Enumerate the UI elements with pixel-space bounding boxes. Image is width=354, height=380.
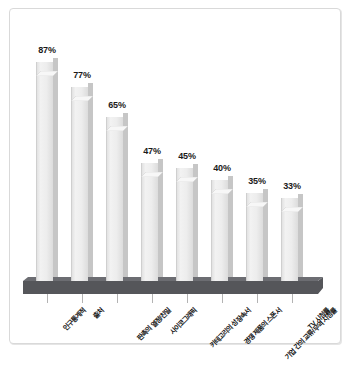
bar-value-label-6: 40% [203, 163, 241, 173]
category-label-3: 판촉의 열정/친밀 [135, 305, 173, 343]
bar-front-face [71, 87, 88, 281]
axis-tick-5 [187, 294, 188, 303]
axis-tick-7 [257, 294, 258, 303]
bar-1: 87% [36, 62, 58, 281]
bar-value-label-2: 77% [63, 70, 101, 80]
bar-top-cap [141, 163, 163, 168]
bar-body [141, 163, 163, 281]
bar-value-label-5: 45% [168, 151, 206, 161]
bar-top-cap [211, 180, 233, 185]
bar-body [71, 87, 93, 281]
axis-tick-8 [292, 294, 293, 303]
bar-value-label-4: 47% [133, 146, 171, 156]
bar-7: 35% [246, 193, 268, 281]
bar-front-face [141, 163, 158, 281]
bar-body [281, 198, 303, 281]
bar-chart-plot-area: 87%77%65%47%45%40%35%33% 인구통계적출처판촉의 열정/친… [10, 9, 342, 345]
bar-front-face [211, 180, 228, 281]
platform-shape [23, 277, 323, 294]
bar-top-cap [176, 168, 198, 173]
category-label-7: 기업 간의 교류/무역 시청률 [282, 305, 338, 361]
category-label-1: 인구통계적 [60, 305, 87, 332]
axis-tick-4 [152, 294, 153, 303]
bar-6: 40% [211, 180, 233, 281]
axis-tick-2 [82, 294, 83, 303]
category-label-4: 사이코그래픽 [167, 305, 198, 336]
bar-top-cap [246, 193, 268, 198]
bar-front-face [176, 168, 193, 281]
bar-side-face [88, 83, 93, 277]
bar-body [106, 117, 128, 281]
bar-value-label-7: 35% [238, 176, 276, 186]
axis-tick-3 [117, 294, 118, 303]
bar-3: 65% [106, 117, 128, 281]
bar-side-face [123, 113, 128, 277]
bar-8: 33% [281, 198, 303, 281]
bar-value-label-8: 33% [273, 181, 311, 191]
bar-body [176, 168, 198, 281]
bar-body [246, 193, 268, 281]
bar-value-label-1: 87% [28, 45, 66, 55]
axis-tick-1 [47, 294, 48, 303]
bar-top-cap [106, 117, 128, 122]
category-label-2: 출처 [90, 305, 105, 320]
bar-top-cap [36, 62, 58, 67]
bar-front-face [106, 117, 123, 281]
bar-top-cap [281, 198, 303, 203]
bar-top-cap [71, 87, 93, 92]
axis-tick-6 [222, 294, 223, 303]
bar-2: 77% [71, 87, 93, 281]
bar-side-face [53, 58, 58, 277]
bar-4: 47% [141, 163, 163, 281]
bar-5: 45% [176, 168, 198, 281]
bar-value-label-3: 65% [98, 100, 136, 110]
bar-front-face [36, 62, 53, 281]
chart-baseline-platform [23, 277, 323, 294]
chart-frame: 87%77%65%47%45%40%35%33% 인구통계적출처판촉의 열정/친… [9, 8, 341, 344]
bar-body [36, 62, 58, 281]
bar-body [211, 180, 233, 281]
